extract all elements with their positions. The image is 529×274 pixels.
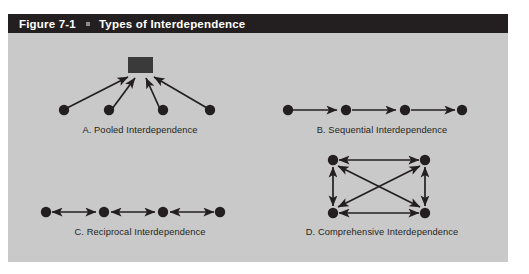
diagram-caption-reciprocal: C. Reciprocal Interdependence — [22, 227, 258, 237]
figure-title: Types of Interdependence — [99, 18, 245, 30]
diagram-pooled-interdependence: A. Pooled Interdependence — [22, 39, 258, 151]
sequential-interdependence-svg — [264, 39, 500, 139]
diagram-sequential-interdependence: B. Sequential Interdependence — [264, 39, 500, 151]
diagram-caption-comprehensive: D. Comprehensive Interdependence — [264, 227, 500, 237]
diagram-caption-sequential: B. Sequential Interdependence — [264, 125, 500, 135]
figure-body-panel: A. Pooled Interdependence — [8, 33, 508, 262]
title-separator-icon — [86, 22, 90, 26]
pooled-nodes — [59, 105, 215, 115]
pooled-hub-box — [128, 57, 153, 73]
figure-title-bar: Figure 7-1 Types of Interdependence — [8, 14, 508, 33]
diagram-caption-pooled: A. Pooled Interdependence — [22, 125, 258, 135]
pooled-interdependence-svg — [22, 39, 258, 139]
figure-number: Figure 7-1 — [19, 18, 76, 30]
diagram-reciprocal-interdependence: C. Reciprocal Interdependence — [22, 151, 258, 259]
diagram-comprehensive-interdependence: D. Comprehensive Interdependence — [264, 151, 500, 259]
figure-container: Figure 7-1 Types of Interdependence — [0, 0, 529, 274]
pooled-arrows — [67, 77, 207, 109]
comprehensive-arrows — [333, 160, 425, 213]
